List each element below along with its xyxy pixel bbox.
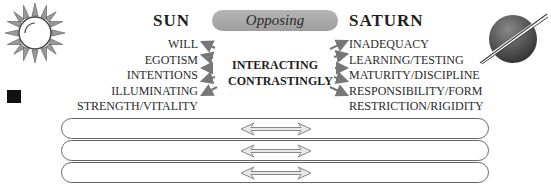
sun-keyword: INTENTIONS [77, 68, 198, 84]
interaction-line-1: INTERACTING [228, 57, 322, 73]
saturn-keyword-list: INADEQUACY LEARNING/TESTING MATURITY/DIS… [349, 37, 484, 115]
sun-keyword: EGOTISM [77, 53, 198, 69]
saturn-keyword: RESTRICTION/RIGIDITY [349, 99, 484, 115]
arrow-icon [313, 38, 351, 108]
saturn-keyword: INADEQUACY [349, 37, 484, 53]
saturn-title: SATURN [349, 11, 424, 31]
double-arrow-icon [240, 122, 312, 136]
interaction-bar [61, 118, 489, 139]
double-arrow-icon [240, 144, 312, 158]
right-arrows [313, 38, 351, 108]
aspect-label: Opposing [246, 12, 304, 29]
sun-keyword: ILLUMINATING [77, 84, 198, 100]
sun-keyword: STRENGTH/VITALITY [77, 99, 198, 115]
interaction-bar [61, 140, 489, 161]
saturn-keyword: RESPONSIBILITY/FORM [349, 84, 484, 100]
saturn-keyword: LEARNING/TESTING [349, 53, 484, 69]
sun-icon [4, 2, 66, 64]
saturn-keyword: MATURITY/DISCIPLINE [349, 68, 484, 84]
interaction-text: INTERACTING CONTRASTINGLY [228, 57, 322, 89]
interaction-bar [61, 162, 489, 183]
saturn-icon [477, 8, 549, 68]
sun-keyword-list: WILL EGOTISM INTENTIONS ILLUMINATING STR… [77, 37, 198, 115]
double-arrow-icon [240, 166, 312, 180]
bullet-square [7, 90, 21, 103]
interaction-line-2: CONTRASTINGLY [228, 73, 322, 89]
sun-keyword: WILL [77, 37, 198, 53]
sun-title: SUN [153, 11, 190, 31]
aspect-label-pill: Opposing [212, 10, 338, 31]
